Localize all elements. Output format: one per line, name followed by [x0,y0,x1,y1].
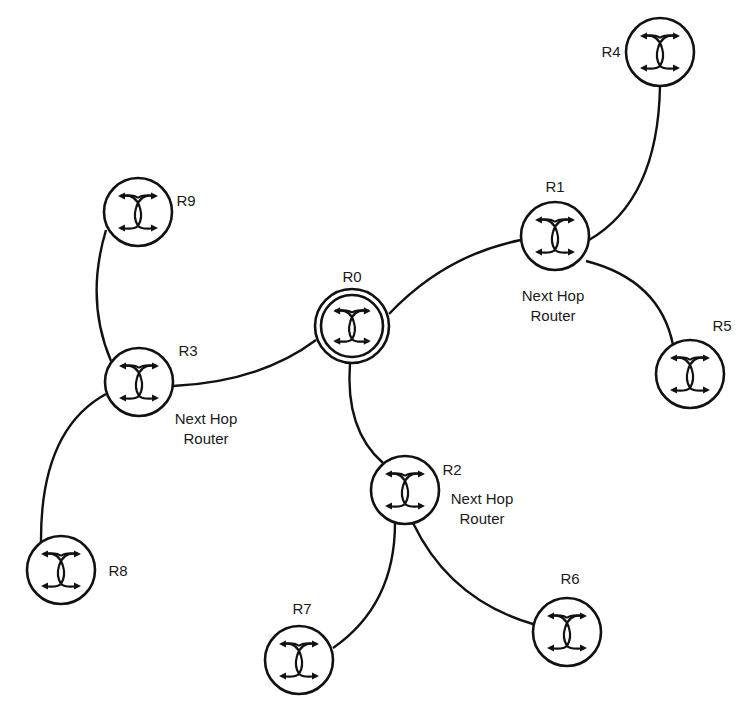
router-node-r2: R2Next HopRouter [371,456,513,527]
router-label: R0 [342,268,361,285]
router-label: R5 [712,317,731,334]
link-r0-r1 [389,240,521,314]
router-label: R8 [108,562,127,579]
next-hop-caption: Next Hop [175,410,238,427]
router-label: R7 [292,600,311,617]
router-node-r0: R0 [315,268,389,363]
router-node-r8: R8 [27,536,128,604]
next-hop-caption: Router [183,430,228,447]
next-hop-caption: Next Hop [451,490,514,507]
router-ring [521,202,589,270]
router-ring [656,340,724,408]
router-ring [27,536,95,604]
link-r0-r2 [349,363,383,463]
router-node-r1: R1Next HopRouter [521,178,589,324]
router-ring [533,598,601,666]
router-label: R6 [560,570,579,587]
router-ring [265,626,333,694]
router-ring [371,456,439,524]
router-ring [626,18,694,86]
router-label: R9 [176,192,195,209]
router-label: R2 [442,461,461,478]
router-label: R4 [601,43,620,60]
link-r1-r5 [586,261,673,345]
link-r2-r7 [333,523,395,648]
router-node-r9: R9 [104,178,196,246]
next-hop-caption: Next Hop [522,287,585,304]
router-label: R1 [545,178,564,195]
router-ring [105,348,173,416]
router-node-r5: R5 [656,317,732,408]
link-r3-r9 [97,230,111,361]
next-hop-caption: Router [459,510,504,527]
link-r3-r8 [41,394,106,543]
link-r2-r6 [413,523,533,624]
router-node-r4: R4 [601,18,694,86]
link-r1-r4 [589,86,660,240]
router-node-r7: R7 [265,600,333,694]
router-inner-ring [321,295,383,357]
router-ring [104,178,172,246]
router-node-r6: R6 [533,570,601,666]
nodes-layer: R0R1Next HopRouterR2Next HopRouterR3Next… [27,18,732,694]
next-hop-caption: Router [530,307,575,324]
router-node-r3: R3Next HopRouter [105,342,237,447]
router-label: R3 [178,342,197,359]
network-topology-diagram: R0R1Next HopRouterR2Next HopRouterR3Next… [0,0,752,721]
